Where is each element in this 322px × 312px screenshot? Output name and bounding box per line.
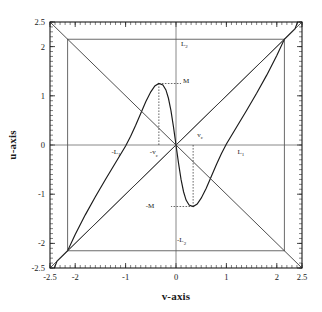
- plot-figure: -2.5-2-10122.5 2.5210-1-2-2.5 L2-L2-L1L1…: [0, 0, 322, 312]
- y-tick-label: 1: [41, 91, 45, 101]
- x-tick-label: -2.5: [43, 272, 56, 282]
- annotation-M: M: [183, 77, 190, 85]
- y-tick-label: -2.5: [32, 263, 45, 273]
- x-tick-label: 0: [174, 272, 178, 282]
- y-tick-label: -1: [38, 189, 45, 199]
- x-axis-title: v-axis: [162, 290, 191, 302]
- y-axis-title: u-axis: [6, 130, 18, 160]
- x-tick-label: -1: [122, 272, 129, 282]
- y-tick-label: 2: [41, 42, 45, 52]
- y-tick-label: 2.5: [34, 17, 45, 27]
- annotation-minus-M: -M: [146, 202, 155, 210]
- x-tick-label: -2: [72, 272, 79, 282]
- x-tick-label: 2.5: [297, 272, 308, 282]
- y-tick-label: 0: [41, 140, 45, 150]
- x-tick-label: 1: [224, 272, 228, 282]
- y-tick-label: -2: [38, 238, 45, 248]
- x-tick-label: 2: [275, 272, 279, 282]
